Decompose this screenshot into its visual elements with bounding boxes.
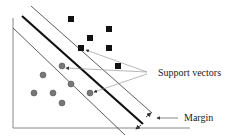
- square-point: [68, 16, 74, 22]
- circle-point support-vector: [59, 63, 65, 69]
- margin-arrow: [146, 113, 151, 117]
- circle-point support-vector: [87, 90, 93, 96]
- upper-margin-line: [31, 6, 152, 113]
- circle-point: [50, 90, 56, 96]
- svm-diagram: Support vectors Margin: [0, 0, 238, 139]
- circle-point: [68, 81, 74, 87]
- hyperplane: [22, 16, 143, 124]
- circle-point: [31, 90, 37, 96]
- square-point: [87, 35, 93, 41]
- support-vector-arrow: [94, 74, 147, 92]
- square-point: [115, 63, 121, 69]
- circle-point: [40, 72, 46, 78]
- support-vector-arrow: [66, 68, 147, 72]
- square-point support-vector: [78, 45, 84, 51]
- margin-label: Margin: [184, 112, 213, 123]
- square-point: [106, 26, 112, 32]
- square-point: [106, 45, 112, 51]
- circle-point: [59, 100, 65, 106]
- support-vectors-label: Support vectors: [158, 67, 221, 78]
